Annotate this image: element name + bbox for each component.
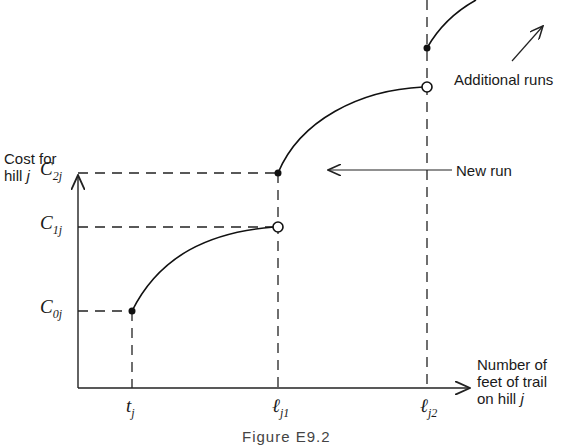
x-tick-l1: ℓj1 (272, 397, 289, 417)
figure-caption: Figure E9.2 (242, 428, 331, 445)
x-tick-l2: ℓj2 (420, 397, 437, 417)
x-tick-t: tj (126, 397, 135, 417)
additional-runs-arrow (512, 26, 543, 61)
new-run-label: New run (456, 162, 512, 179)
additional-runs-label: Additional runs (454, 71, 553, 88)
filled-point (424, 45, 431, 52)
guide-lines (78, 0, 427, 388)
y-tick-c2: C2j (40, 160, 62, 180)
y-tick-c1: C1j (40, 214, 62, 234)
y-tick-c0: C0j (40, 298, 62, 318)
filled-point (129, 308, 136, 315)
filled-point (275, 170, 282, 177)
x-axis-label: Number of feet of trail on hill j (477, 356, 547, 407)
open-point (422, 82, 432, 92)
open-point (273, 222, 283, 232)
